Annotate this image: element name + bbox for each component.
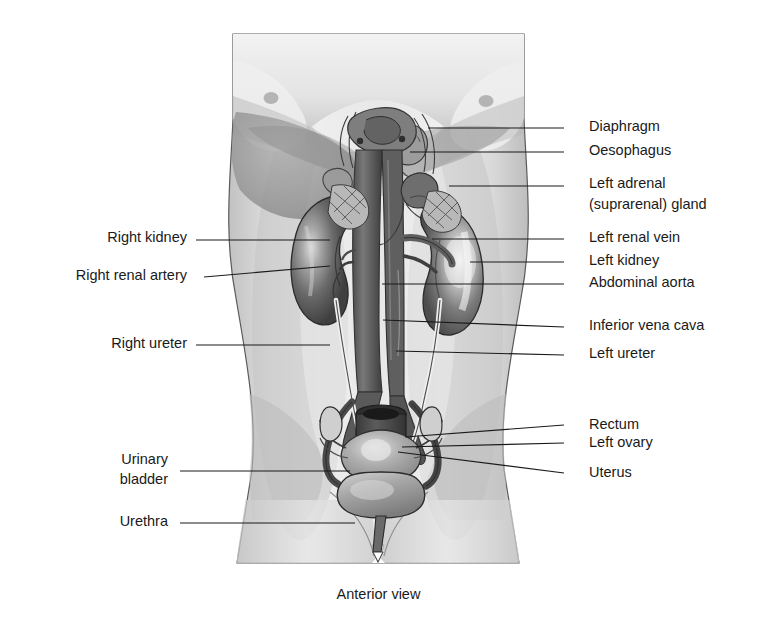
label-right-kidney: Right kidney — [107, 229, 188, 245]
nipple-left — [479, 95, 494, 107]
urinary-bladder-organ — [337, 472, 425, 518]
label-urinary-bladder: Urinary — [121, 451, 168, 467]
right-ovary-organ — [320, 407, 342, 441]
label-left-adrenal: Left adrenal — [589, 175, 666, 191]
label-rectum: Rectum — [589, 416, 639, 432]
label-urethra: Urethra — [120, 513, 169, 529]
label-left-kidney: Left kidney — [589, 252, 660, 268]
label-right-ureter: Right ureter — [111, 335, 187, 351]
label-uterus: Uterus — [589, 464, 632, 480]
label-abdominal-aorta: Abdominal aorta — [589, 274, 696, 290]
label-oesophagus: Oesophagus — [589, 142, 671, 158]
figure-caption: Anterior view — [0, 586, 757, 602]
label-diaphragm: Diaphragm — [589, 118, 660, 134]
label-right-renal-artery: Right renal artery — [76, 267, 188, 283]
anatomical-diagram-urinary-system: DiaphragmOesophagusLeft adrenal(supraren… — [0, 0, 757, 633]
nipple-right — [264, 92, 279, 104]
inferior-vena-cava-organ — [353, 150, 382, 392]
label-left-renal-vein: Left renal vein — [589, 229, 680, 245]
label-left-adrenal2: (suprarenal) gland — [589, 196, 707, 212]
label-inferior-vena-cava: Inferior vena cava — [589, 317, 705, 333]
label-left-ovary: Left ovary — [589, 434, 653, 450]
label-left-ureter: Left ureter — [589, 345, 655, 361]
label-urinary-bladder2: bladder — [120, 471, 169, 487]
